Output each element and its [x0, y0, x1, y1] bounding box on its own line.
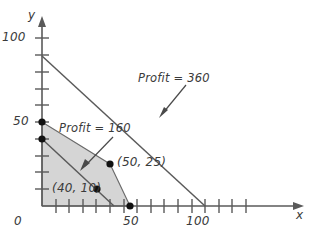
point-0-50	[38, 118, 45, 125]
graph-canvas	[0, 0, 313, 234]
annotation-profit-360: Profit = 360	[138, 71, 210, 85]
y-tick-label-50: 50	[13, 114, 29, 128]
x-tick-label-50: 50	[123, 214, 139, 228]
x-axis-label: x	[296, 208, 303, 222]
x-tick-label-0: 0	[14, 214, 22, 228]
graph-figure: y x 100 50 0 50 100 (40, 10) (50, 25) Pr…	[0, 0, 313, 234]
point-0-40	[38, 135, 45, 142]
annotation-profit-160: Profit = 160	[59, 121, 131, 135]
profit-360-arrow	[159, 85, 186, 118]
point-label-40-10: (40, 10)	[52, 181, 101, 195]
point-65-0	[126, 202, 133, 209]
x-tick-label-100: 100	[186, 214, 210, 228]
y-tick-label-100: 100	[2, 30, 26, 44]
y-axis-arrowhead	[38, 16, 46, 27]
point-label-50-25: (50, 25)	[117, 155, 166, 169]
point-50-25	[106, 160, 113, 167]
y-axis-label: y	[28, 8, 35, 22]
